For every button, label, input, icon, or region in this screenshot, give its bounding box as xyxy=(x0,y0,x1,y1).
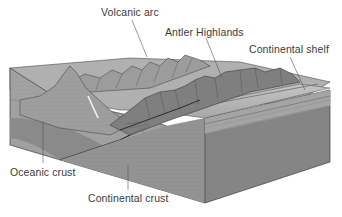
label-continental-shelf: Continental shelf xyxy=(249,43,329,55)
label-oceanic-crust: Oceanic crust xyxy=(10,166,76,178)
label-antler-highlands: Antler Highlands xyxy=(165,26,244,38)
leader-volcanic-arc xyxy=(132,20,147,57)
label-continental-crust: Continental crust xyxy=(88,192,169,204)
label-volcanic-arc: Volcanic arc xyxy=(101,6,159,18)
